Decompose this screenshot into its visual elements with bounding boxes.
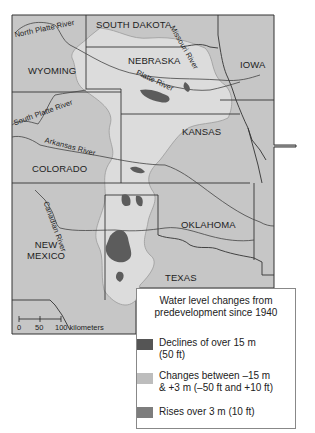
legend-item-decline-line1: Declines of over 15 m — [159, 337, 256, 349]
state-label-oklahoma: OKLAHOMA — [181, 219, 236, 230]
state-label-south-dakota: SOUTH DAKOTA — [96, 19, 171, 30]
state-label-kansas: KANSAS — [182, 126, 221, 137]
legend-item-rise: Rises over 3 m (10 ft) — [159, 406, 255, 418]
legend-swatch-rise — [137, 407, 153, 418]
legend: Water level changes from predevelopment … — [136, 288, 296, 429]
legend-swatch-decline — [137, 339, 153, 350]
state-label-wyoming: WYOMING — [28, 65, 76, 76]
legend-item-change: Changes between –15 m & +3 m (–50 ft and… — [159, 370, 273, 393]
legend-item-change-line1: Changes between –15 m — [159, 370, 273, 382]
scale-label-100: 100 kilometers — [55, 323, 104, 332]
legend-title-line1: Water level changes from — [137, 295, 295, 307]
legend-item-rise-line1: Rises over 3 m (10 ft) — [159, 406, 255, 418]
legend-item-change-line2: & +3 m (–50 ft and +10 ft) — [159, 382, 273, 394]
legend-item-decline: Declines of over 15 m (50 ft) — [159, 337, 256, 360]
legend-title: Water level changes from predevelopment … — [137, 295, 295, 319]
legend-swatch-change — [137, 373, 153, 384]
legend-title-line2: predevelopment since 1940 — [137, 307, 295, 319]
state-label-colorado: COLORADO — [32, 163, 87, 174]
state-label-iowa: IOWA — [240, 59, 265, 70]
legend-item-decline-line2: (50 ft) — [159, 349, 256, 361]
scale-label-0: 0 — [17, 323, 21, 332]
state-label-texas: TEXAS — [165, 272, 197, 283]
scale-label-50: 50 — [35, 323, 43, 332]
state-label-nebraska: NEBRASKA — [128, 55, 181, 66]
